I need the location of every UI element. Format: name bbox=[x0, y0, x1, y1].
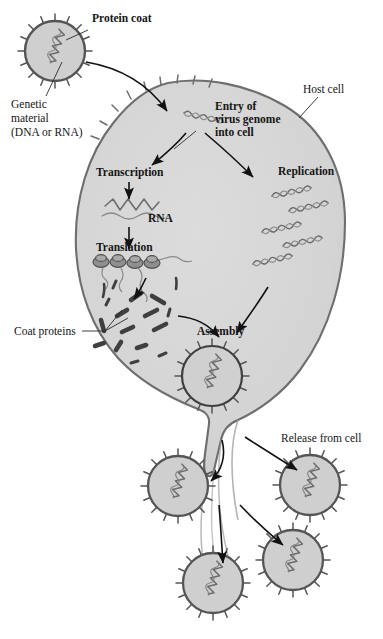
virus-replication-diagram: Protein coat Genetic material (DNA or RN… bbox=[0, 0, 383, 639]
label-genetic-material-line3: (DNA or RNA) bbox=[11, 126, 83, 139]
label-protein-coat: Protein coat bbox=[92, 12, 152, 25]
leader-host-cell bbox=[299, 97, 318, 118]
label-host-cell: Host cell bbox=[303, 83, 344, 96]
virus-particle-assembled bbox=[175, 339, 249, 413]
label-entry-line1: Entry of bbox=[215, 100, 256, 113]
label-genetic-material-line1: Genetic bbox=[11, 98, 47, 111]
label-replication: Replication bbox=[278, 165, 334, 178]
virus-particle-released bbox=[256, 523, 330, 597]
label-coat-proteins: Coat proteins bbox=[14, 325, 76, 338]
virus-particle-released bbox=[141, 449, 215, 523]
label-entry-line2: virus genome bbox=[215, 113, 280, 126]
label-rna: RNA bbox=[148, 212, 173, 225]
label-transcription: Transcription bbox=[96, 166, 164, 179]
label-translation: Translation bbox=[96, 241, 153, 254]
virus-particle-released bbox=[176, 546, 250, 620]
virus-particle-released bbox=[273, 448, 347, 522]
label-assembly: Assembly bbox=[197, 325, 244, 338]
label-genetic-material-line2: material bbox=[11, 112, 49, 125]
label-release-from-cell: Release from cell bbox=[281, 432, 361, 445]
arrow-release-bottom-right bbox=[240, 505, 283, 545]
label-entry-line3: into cell bbox=[215, 126, 254, 139]
